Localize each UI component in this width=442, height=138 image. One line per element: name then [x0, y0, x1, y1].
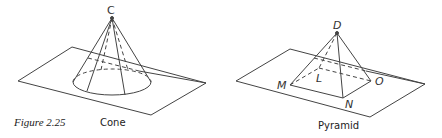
- pyramid-vertex-O-label: O: [375, 75, 384, 88]
- pyramid-vertex-N-label: N: [345, 98, 353, 111]
- pyramid-apex-label: D: [333, 19, 341, 32]
- cone-caption: Cone: [100, 117, 126, 128]
- cone-diagram: [18, 17, 206, 116]
- cone-plane: [18, 47, 206, 115]
- pyramid-vertex-M-label: M: [277, 79, 287, 92]
- figure-2-25: C Figure 2.25 Cone D M L N O Pyramid: [0, 0, 442, 138]
- pyramid-vertex-L-label: L: [316, 72, 322, 85]
- figure-number-label: Figure 2.25: [13, 116, 66, 128]
- pyramid-plane: [236, 49, 425, 117]
- pyramid-diagram: [236, 32, 425, 118]
- cone-apex-label: C: [107, 4, 115, 17]
- pyramid-caption: Pyramid: [318, 120, 359, 131]
